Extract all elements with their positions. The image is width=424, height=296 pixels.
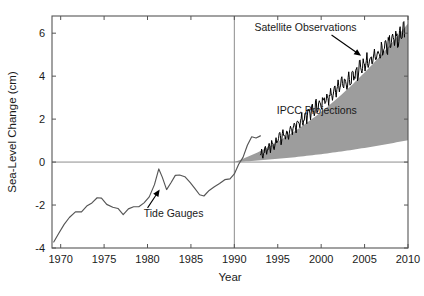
x-axis-title: Year [218,271,241,283]
satellite-observations-label: Satellite Observations [254,21,356,33]
x-axis-tick-labels: 197019751980198519901995200020052010 [48,253,420,265]
x-tick-label: 1975 [92,253,116,265]
y-tick-label: 6 [39,27,45,39]
ipcc-projections-label: IPCC Projections [277,104,357,116]
x-tick-label: 2005 [352,253,376,265]
y-axis-title: Sea-Level Change (cm) [6,71,18,193]
x-tick-label: 2000 [309,253,333,265]
x-tick-label: 1980 [135,253,159,265]
y-tick-label: -4 [35,242,45,254]
tide-gauges-label: Tide Gauges [144,207,204,219]
sea-level-change-chart: 197019751980198519901995200020052010 -4-… [0,0,424,296]
x-tick-label: 1995 [266,253,290,265]
y-tick-label: -2 [35,199,45,211]
y-tick-label: 2 [39,113,45,125]
y-axis-tick-labels: -4-20246 [35,27,45,254]
chart-canvas: 197019751980198519901995200020052010 -4-… [0,0,424,296]
x-tick-label: 2010 [396,253,420,265]
y-tick-label: 4 [39,70,45,82]
x-tick-label: 1970 [48,253,72,265]
x-tick-label: 1985 [179,253,203,265]
y-tick-label: 0 [39,156,45,168]
x-tick-label: 1990 [222,253,246,265]
